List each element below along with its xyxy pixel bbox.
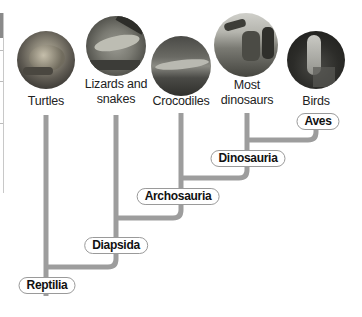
taxon-label-line: Lizards and bbox=[85, 77, 147, 92]
taxon-label-lizards: Lizards and snakes bbox=[85, 77, 147, 107]
clade-label-dinosauria: Dinosauria bbox=[210, 150, 285, 167]
taxon-label-turtles: Turtles bbox=[28, 94, 64, 109]
clade-label-reptilia: Reptilia bbox=[19, 277, 76, 294]
lizard-photo bbox=[86, 16, 146, 76]
bird-photo bbox=[287, 31, 345, 89]
turtle-photo bbox=[17, 31, 75, 89]
crocodile-photo bbox=[151, 36, 211, 96]
dinosaur-photo bbox=[214, 13, 278, 77]
clade-label-archosauria: Archosauria bbox=[137, 188, 220, 205]
taxon-label-line: Most bbox=[221, 78, 273, 93]
branch-dinosauria bbox=[181, 113, 247, 178]
taxon-label-line: snakes bbox=[85, 92, 147, 107]
clade-label-diapsida: Diapsida bbox=[84, 237, 148, 254]
taxon-label-birds: Birds bbox=[302, 94, 329, 109]
taxon-label-dinosaurs: Most dinosaurs bbox=[221, 78, 273, 108]
taxon-label-line: dinosaurs bbox=[221, 93, 273, 108]
taxon-label-crocodiles: Crocodiles bbox=[152, 94, 209, 109]
clade-label-aves: Aves bbox=[296, 113, 339, 130]
